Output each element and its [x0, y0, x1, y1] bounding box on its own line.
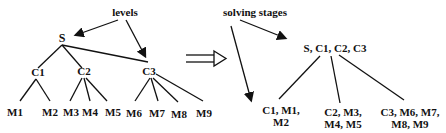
- node-c1: C1: [31, 66, 44, 78]
- leaf-m8: M8: [171, 108, 187, 120]
- stage-child-1: C1, M1, M2: [262, 104, 300, 128]
- leaf-m6: M6: [126, 107, 142, 119]
- node-c2: C2: [77, 65, 90, 77]
- stage-child-2: C2, M3, M4, M5: [324, 106, 362, 130]
- stage-root: S, C1, C2, C3: [304, 42, 367, 54]
- leaf-m5: M5: [105, 106, 121, 118]
- node-c3: C3: [142, 65, 155, 77]
- leaf-m7: M7: [149, 107, 165, 119]
- stage-child-3: C3, M6, M7, M8, M9: [381, 106, 440, 130]
- solving-stages-annotation: solving stages: [223, 6, 287, 18]
- leaf-m3: M3: [63, 106, 79, 118]
- leaf-m4: M4: [82, 106, 98, 118]
- levels-annotation: levels: [112, 6, 138, 18]
- node-root: S: [59, 32, 66, 44]
- leaf-m2: M2: [42, 106, 58, 118]
- leaf-m9: M9: [196, 107, 212, 119]
- leaf-m1: M1: [7, 106, 23, 118]
